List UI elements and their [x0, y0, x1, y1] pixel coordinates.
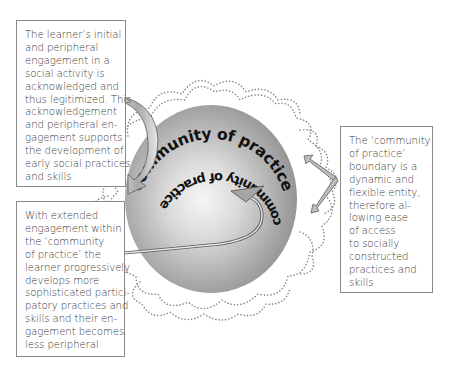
- box-line: The ‘community: [349, 135, 426, 148]
- box-line: therefore al-: [349, 200, 426, 213]
- text-box-dynamic-boundary: The ‘community of practice’ boundary is …: [340, 126, 433, 293]
- box-line: to socially: [349, 238, 426, 251]
- box-line: engagement within: [25, 223, 118, 236]
- box-line: practices and: [349, 264, 426, 277]
- text-box-extended-engagement: With extended engagement within the ‘com…: [16, 201, 125, 357]
- box-line: dynamic and: [349, 174, 426, 187]
- box-line: acknowledgement: [25, 106, 119, 119]
- box-line: social activity is: [25, 68, 119, 81]
- box-line: of access: [349, 225, 426, 238]
- box-line: thus legitimized. This: [25, 94, 119, 107]
- box-line: of practice’: [349, 148, 426, 161]
- box-line: and peripheral en-: [25, 119, 119, 132]
- box-line: gagement becomes: [25, 326, 118, 339]
- box-line: and peripheral: [25, 42, 119, 55]
- box-line: the development of: [25, 145, 119, 158]
- box-line: of practice’ the: [25, 249, 118, 262]
- box-line: the ‘community: [25, 236, 118, 249]
- box-line: acknowledged and: [25, 81, 119, 94]
- box-line: engagement in a: [25, 55, 119, 68]
- box-line: skills: [349, 277, 426, 290]
- box-line: gagement supports: [25, 132, 119, 145]
- box-line: early social practices: [25, 158, 119, 171]
- box-line: skills and their en-: [25, 313, 118, 326]
- box-line: boundary is a: [349, 161, 426, 174]
- box-line: sophisticated partici-: [25, 287, 118, 300]
- box-line: less peripheral: [25, 339, 118, 352]
- box-line: flexible entity,: [349, 187, 426, 200]
- box-line: The learner’s initial: [25, 29, 119, 42]
- text-box-initial-engagement: The learner’s initial and peripheral eng…: [16, 20, 126, 187]
- box-line: patory practices and: [25, 300, 118, 313]
- box-line: learner progressively: [25, 262, 118, 275]
- box-line: develops more: [25, 275, 118, 288]
- box-line: lowing ease: [349, 212, 426, 225]
- box-line: and skills: [25, 171, 119, 184]
- box-line: constructed: [349, 251, 426, 264]
- box-line: With extended: [25, 210, 118, 223]
